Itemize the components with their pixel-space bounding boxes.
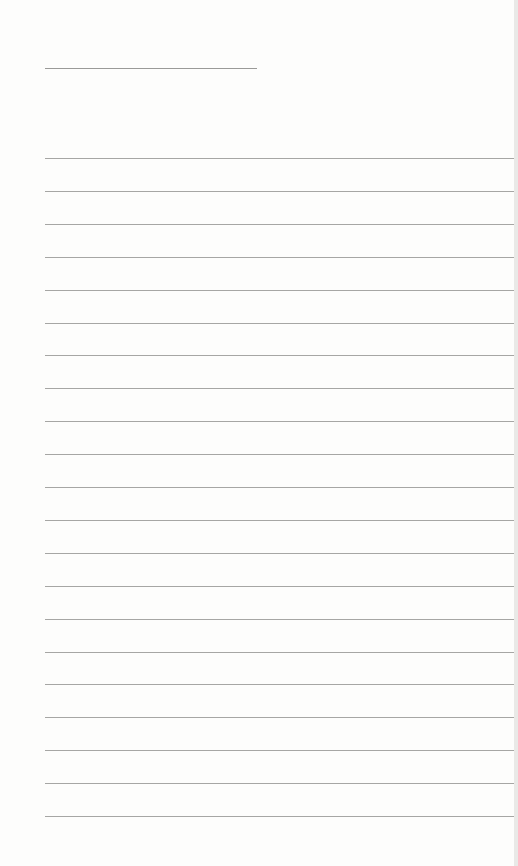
writing-line bbox=[45, 191, 515, 192]
writing-line bbox=[45, 323, 515, 324]
writing-line bbox=[45, 520, 515, 521]
writing-line bbox=[45, 224, 515, 225]
writing-line bbox=[45, 586, 515, 587]
writing-line bbox=[45, 487, 515, 488]
page-edge bbox=[514, 0, 518, 866]
writing-line bbox=[45, 388, 515, 389]
lined-paper-page bbox=[0, 0, 514, 866]
writing-line bbox=[45, 257, 515, 258]
writing-line bbox=[45, 158, 515, 159]
writing-line bbox=[45, 750, 515, 751]
writing-line bbox=[45, 553, 515, 554]
writing-line bbox=[45, 717, 515, 718]
writing-line bbox=[45, 783, 515, 784]
writing-line bbox=[45, 684, 515, 685]
writing-line bbox=[45, 290, 515, 291]
title-line bbox=[45, 68, 257, 69]
writing-line bbox=[45, 355, 515, 356]
writing-line bbox=[45, 652, 515, 653]
writing-line bbox=[45, 816, 515, 817]
writing-line bbox=[45, 619, 515, 620]
writing-line bbox=[45, 454, 515, 455]
writing-line bbox=[45, 421, 515, 422]
